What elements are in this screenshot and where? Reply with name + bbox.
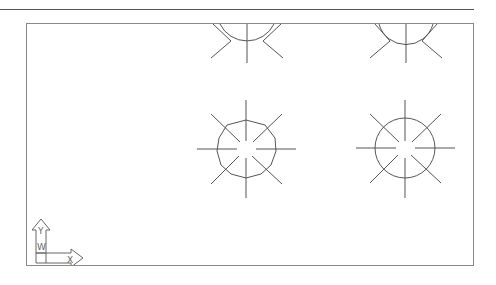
light-fixture-top-right-icon <box>370 24 442 63</box>
drawing-viewport[interactable]: Y W X <box>26 23 474 266</box>
drawing-canvas[interactable]: Y W X <box>27 24 474 266</box>
ucs-x-label: X <box>67 255 73 265</box>
ucs-y-label: Y <box>37 226 44 236</box>
top-divider-line <box>0 9 474 10</box>
light-fixture-mid-left-icon <box>197 100 296 198</box>
ucs-w-label: W <box>37 242 46 252</box>
light-fixture-mid-right-icon <box>356 100 455 198</box>
light-fixture-top-left-icon <box>211 24 283 63</box>
